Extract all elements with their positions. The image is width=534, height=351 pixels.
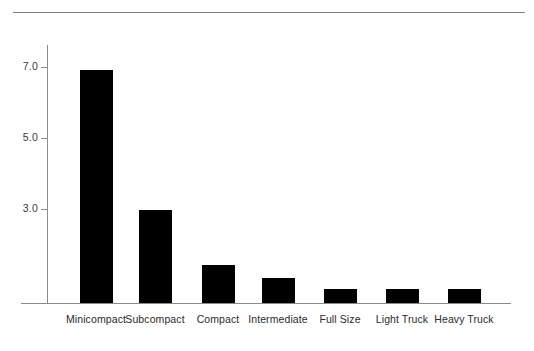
y-axis-tick-label-wrap: 3.0 <box>0 209 38 210</box>
bar-chart-plot-area: 3.05.07.0 MinicompactSubcompactCompactIn… <box>0 0 534 351</box>
bar <box>448 289 481 303</box>
bar <box>80 70 113 303</box>
y-axis-tick-label: 5.0 <box>0 131 38 143</box>
bar <box>324 289 357 303</box>
chart-page: 3.05.07.0 MinicompactSubcompactCompactIn… <box>0 0 534 351</box>
y-axis-tick-label-wrap: 5.0 <box>0 138 38 139</box>
y-axis-tick <box>41 209 48 210</box>
bar <box>262 278 295 303</box>
bar <box>139 210 172 303</box>
y-axis-tick-label: 7.0 <box>0 60 38 72</box>
y-axis-tick-label: 3.0 <box>0 202 38 214</box>
x-axis-label: Heavy Truck <box>404 313 524 325</box>
bar <box>202 265 235 303</box>
y-axis-tick <box>41 67 48 68</box>
y-axis-tick-label-wrap: 7.0 <box>0 67 38 68</box>
y-axis-tick <box>41 138 48 139</box>
bar <box>386 289 419 303</box>
x-axis-line <box>21 303 511 304</box>
y-axis-line <box>47 45 48 304</box>
